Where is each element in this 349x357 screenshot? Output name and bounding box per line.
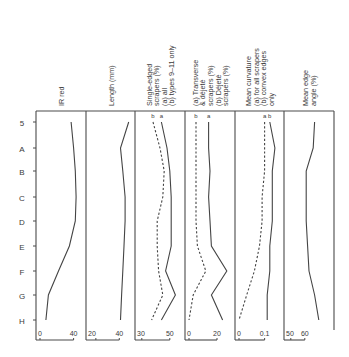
series-label: b [151,113,155,119]
series-line-a [239,122,265,320]
x-tick-label: 0.1 [260,330,270,337]
series-line-b [267,122,275,320]
series-label: a [160,113,164,119]
x-tick-label: 0 [237,330,241,337]
x-tick-label: 20 [88,330,96,337]
series-line-main [121,122,129,320]
panel-header-line: angle (%) [309,75,318,106]
series-line-a [209,122,227,320]
x-tick-label: 50 [286,330,294,337]
series-line-main [46,122,76,320]
x-tick-label: 60 [301,330,309,337]
row-axis-labels: 5ABCDEFGH [19,119,36,326]
panel-header-line: Length (mm) [107,65,116,106]
row-label: B [19,168,24,177]
series-label: a [207,113,211,119]
row-label: E [19,243,24,252]
row-label: G [19,292,25,301]
series-line-b [189,122,206,320]
panel-frame [36,111,334,330]
row-label: H [19,317,25,326]
row-label: C [19,194,25,203]
series-label: b [268,113,272,119]
x-tick-label: 30 [137,330,145,337]
panel-header-line: IR red [57,86,66,106]
stratigraphic-profile-chart: 5ABCDEFGH IR redLength (mm)Single-edgeds… [0,0,349,357]
series-label: a [263,113,267,119]
series-label: b [194,113,198,119]
panel-header-line: scrapers (%) [221,65,230,106]
x-tick-label: 0 [187,330,191,337]
x-tick-label: 20 [213,330,221,337]
x-tick-label: 0 [38,330,42,337]
x-tick-label: 40 [115,330,123,337]
panel-header-line: (b) types 9–11 only [167,45,176,106]
row-label: D [19,218,25,227]
panel-bottom-axes: 0402040305002000.15060 [36,330,309,340]
panel-series: ababab [46,113,319,320]
panel-headers: IR redLength (mm)Single-edgedscrapers (%… [57,45,318,106]
x-tick-label: 50 [166,330,174,337]
panel-header-line: only [267,92,276,106]
row-label: F [20,268,25,277]
x-tick-label: 40 [70,330,78,337]
series-line-a [161,122,175,320]
series-line-b [152,122,165,320]
row-label: 5 [20,119,25,128]
row-label: A [19,145,25,154]
series-line-main [306,122,319,320]
